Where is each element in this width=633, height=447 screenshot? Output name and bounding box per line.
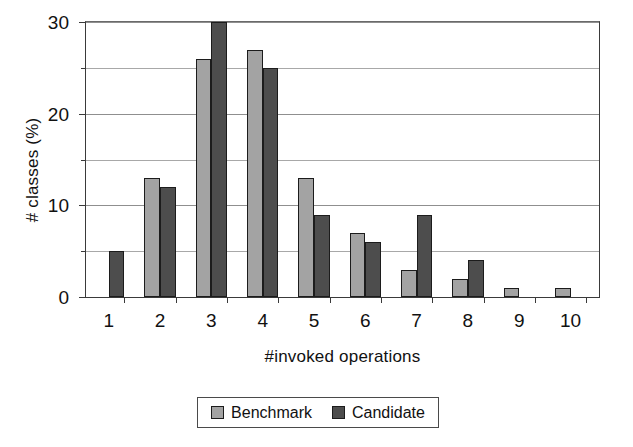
bar-candidate-6: [365, 242, 381, 297]
bar-group: 8: [445, 22, 496, 297]
bar-candidate-2: [160, 187, 176, 297]
legend-label-benchmark: Benchmark: [231, 404, 312, 422]
y-tick-label-20: 20: [48, 104, 69, 126]
bar-group: 10: [548, 22, 599, 297]
x-tick-4: [278, 297, 279, 303]
y-tick-0: 0: [79, 297, 86, 298]
x-tick-6: [381, 297, 382, 303]
bar-benchmark-4: [247, 50, 263, 298]
bar-benchmark-2: [144, 178, 160, 297]
chart-legend: Benchmark Candidate: [197, 397, 439, 428]
x-tick-7: [432, 297, 433, 303]
x-tick-8: [484, 297, 485, 303]
legend-item-benchmark: Benchmark: [211, 404, 312, 422]
legend-item-candidate: Candidate: [332, 404, 425, 422]
x-tick-2: [176, 297, 177, 303]
x-tick-label-2: 2: [155, 310, 166, 332]
bar-group: 6: [343, 22, 394, 297]
y-tick-30: 30: [79, 22, 86, 23]
bar-candidate-3: [211, 22, 227, 297]
x-tick-label-3: 3: [206, 310, 217, 332]
bar-group: 9: [496, 22, 547, 297]
bar-group: 5: [291, 22, 342, 297]
y-tick-label-10: 10: [48, 195, 69, 217]
bar-series-container: 12345678910: [86, 22, 599, 297]
bar-candidate-8: [468, 260, 484, 297]
y-tick-20: 20: [79, 114, 86, 115]
y-tick-10: 10: [79, 205, 86, 206]
bar-candidate-1: [109, 251, 125, 297]
bar-benchmark-10: [555, 288, 571, 297]
bar-group: 1: [86, 22, 137, 297]
x-tick-label-1: 1: [104, 310, 115, 332]
bar-candidate-5: [314, 215, 330, 298]
x-tick-label-10: 10: [560, 310, 581, 332]
x-tick-label-9: 9: [514, 310, 525, 332]
y-tick-label-30: 30: [48, 12, 69, 34]
bar-benchmark-3: [196, 59, 212, 297]
bar-group: 7: [394, 22, 445, 297]
bar-group: 4: [240, 22, 291, 297]
x-tick-9: [535, 297, 536, 303]
bar-benchmark-8: [452, 279, 468, 297]
x-tick-10: [586, 297, 587, 303]
x-tick-label-8: 8: [463, 310, 474, 332]
legend-label-candidate: Candidate: [352, 404, 425, 422]
x-axis-title: #invoked operations: [85, 347, 600, 367]
bar-group: 3: [189, 22, 240, 297]
bar-benchmark-6: [350, 233, 366, 297]
x-tick-5: [330, 297, 331, 303]
x-tick-label-5: 5: [309, 310, 320, 332]
bar-chart-figure: # classes (%) 30 20 10 0 12345678910 #in…: [0, 0, 633, 447]
x-tick-label-7: 7: [411, 310, 422, 332]
legend-swatch-benchmark-icon: [211, 406, 224, 419]
y-axis-title: # classes (%): [23, 60, 43, 280]
bar-benchmark-5: [298, 178, 314, 297]
x-tick-label-6: 6: [360, 310, 371, 332]
legend-swatch-candidate-icon: [332, 406, 345, 419]
plot-area: 30 20 10 0 12345678910: [85, 21, 600, 298]
bar-group: 2: [137, 22, 188, 297]
x-tick-label-4: 4: [257, 310, 268, 332]
x-tick-3: [227, 297, 228, 303]
bar-candidate-7: [417, 215, 433, 298]
y-tick-label-0: 0: [58, 287, 69, 309]
x-tick-1: [124, 297, 125, 303]
bar-benchmark-7: [401, 270, 417, 298]
bar-candidate-4: [263, 68, 279, 297]
bar-benchmark-9: [504, 288, 520, 297]
